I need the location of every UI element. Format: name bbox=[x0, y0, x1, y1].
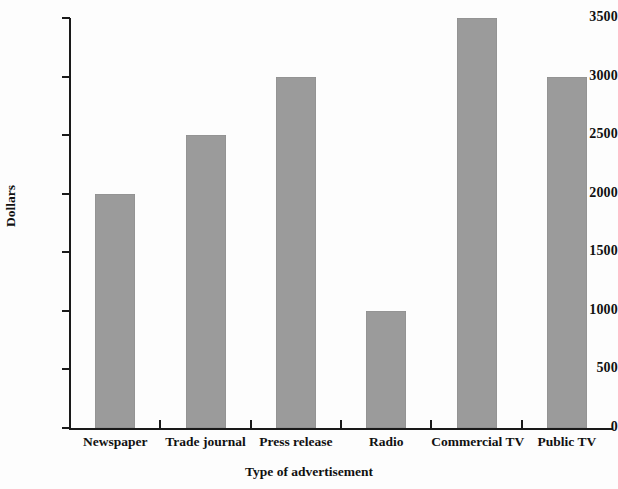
bar bbox=[276, 77, 316, 428]
y-tick-mark bbox=[62, 76, 70, 78]
plot-area bbox=[70, 18, 612, 428]
x-category-label: Press release bbox=[251, 434, 341, 450]
y-tick-mark bbox=[62, 368, 70, 370]
y-tick-mark bbox=[62, 310, 70, 312]
x-category-label: Radio bbox=[341, 434, 431, 450]
y-tick-mark bbox=[62, 17, 70, 19]
x-category-label: Trade journal bbox=[160, 434, 250, 450]
bar bbox=[95, 194, 135, 428]
x-axis-title: Type of advertisement bbox=[0, 464, 618, 480]
x-category-label: Commercial TV bbox=[431, 434, 521, 450]
y-tick-mark bbox=[62, 193, 70, 195]
y-tick-mark bbox=[62, 427, 70, 429]
bar bbox=[547, 77, 587, 428]
bar bbox=[366, 311, 406, 428]
y-axis-title: Dollars bbox=[3, 171, 19, 241]
bar bbox=[186, 135, 226, 428]
bar-chart-figure: 0500100015002000250030003500 NewspaperTr… bbox=[0, 0, 618, 489]
x-category-label: Public TV bbox=[522, 434, 612, 450]
y-tick-mark bbox=[62, 251, 70, 253]
y-tick-mark bbox=[62, 134, 70, 136]
x-category-label: Newspaper bbox=[70, 434, 160, 450]
bar bbox=[457, 18, 497, 428]
